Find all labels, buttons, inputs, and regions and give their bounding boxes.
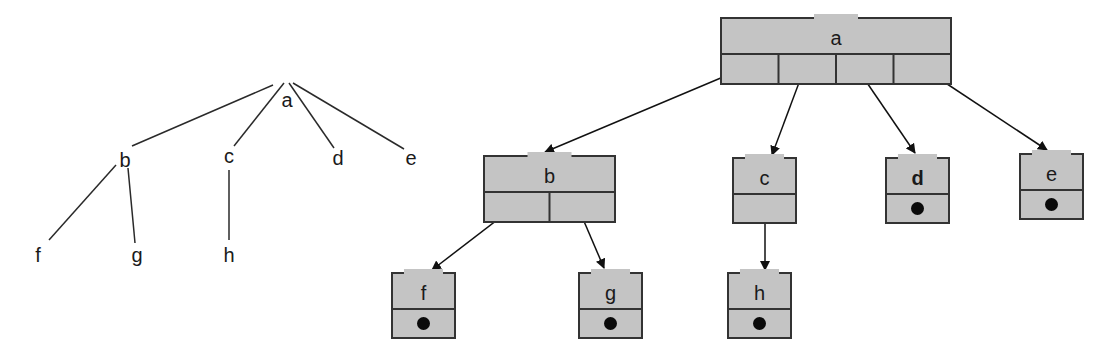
node-label: e xyxy=(1046,163,1057,185)
pointer-arrow xyxy=(545,72,735,152)
node-box-c: c xyxy=(733,154,796,223)
tree-node-f: f xyxy=(35,244,41,266)
null-pointer-dot xyxy=(1045,198,1058,211)
node-box-e: e xyxy=(1020,150,1083,219)
null-pointer-dot xyxy=(911,202,924,215)
node-label: b xyxy=(544,165,555,187)
tree-edge xyxy=(293,83,404,149)
abstract-tree: abcdefgh xyxy=(35,83,416,266)
tree-node-g: g xyxy=(131,244,142,266)
node-label: d xyxy=(911,167,923,189)
node-label: g xyxy=(605,282,616,304)
null-pointer-dot xyxy=(604,317,617,330)
node-box-b: b xyxy=(484,152,615,222)
node-box-h: h xyxy=(728,269,791,338)
node-box-d: d xyxy=(886,154,949,223)
tree-edge xyxy=(132,85,273,146)
tree-edge xyxy=(128,168,135,243)
node-box-f: f xyxy=(392,269,455,338)
tree-node-d: d xyxy=(332,147,343,169)
node-structure-tree: abcdefgh xyxy=(392,14,1083,338)
node-box-a: a xyxy=(721,14,951,84)
node-box-g: g xyxy=(579,269,642,338)
tree-node-c: c xyxy=(224,145,234,167)
tree-edge xyxy=(49,165,116,240)
node-label: c xyxy=(760,167,770,189)
node-label: a xyxy=(830,27,842,49)
tree-edge xyxy=(289,83,334,148)
tree-diagram: abcdefgh abcdefgh xyxy=(0,0,1120,364)
null-pointer-dot xyxy=(417,317,430,330)
pointer-arrow xyxy=(861,74,915,153)
tree-node-a: a xyxy=(281,89,293,111)
null-pointer-dot xyxy=(753,317,766,330)
node-label: h xyxy=(754,282,765,304)
node-label: f xyxy=(421,282,427,304)
tree-node-b: b xyxy=(119,149,130,171)
tree-node-e: e xyxy=(405,147,416,169)
tree-node-h: h xyxy=(223,244,234,266)
tree-edge xyxy=(234,83,284,146)
